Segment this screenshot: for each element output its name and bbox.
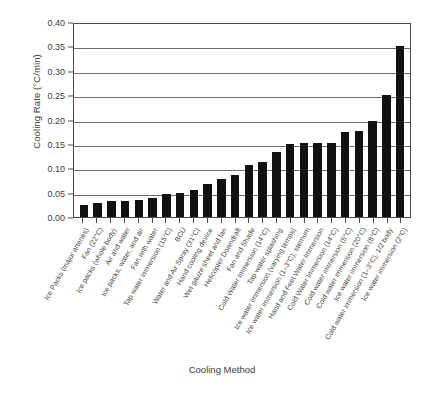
- y-tick-label: 0.35: [47, 42, 65, 52]
- bar-slot: [352, 24, 366, 217]
- x-tick-mark: [193, 218, 194, 223]
- bar-slot: [91, 24, 105, 217]
- bar: [93, 203, 102, 217]
- bar-slot: [146, 24, 160, 217]
- x-tick-mark: [304, 218, 305, 223]
- bar-slot: [77, 24, 91, 217]
- bar-slot: [256, 24, 270, 217]
- bar: [300, 143, 309, 217]
- bar: [355, 131, 364, 217]
- bar: [176, 193, 185, 217]
- x-tick-mark: [138, 218, 139, 223]
- bar: [203, 184, 212, 217]
- bar-slot: [132, 24, 146, 217]
- y-tick-mark: [68, 96, 73, 97]
- bar: [313, 143, 322, 217]
- bar-slot: [173, 24, 187, 217]
- bar-slot: [228, 24, 242, 217]
- y-tick-mark: [68, 169, 73, 170]
- bar-slot: [393, 24, 407, 217]
- x-tick-mark: [373, 218, 374, 223]
- x-tick-mark: [400, 218, 401, 223]
- x-tick-mark: [207, 218, 208, 223]
- x-tick-mark: [124, 218, 125, 223]
- y-tick-mark: [68, 71, 73, 72]
- bar-slot: [311, 24, 325, 217]
- bar-series: [74, 24, 410, 217]
- cooling-rate-bar-chart: Cooling Rate (°C/min) 0.400.350.300.250.…: [0, 0, 444, 395]
- y-tick-label: 0.00: [47, 213, 65, 223]
- x-tick-mark: [179, 218, 180, 223]
- bar-slot: [283, 24, 297, 217]
- bar-slot: [325, 24, 339, 217]
- bar-slot: [366, 24, 380, 217]
- bar: [396, 46, 405, 217]
- y-tick-mark: [68, 23, 73, 24]
- y-axis: 0.400.350.300.250.200.150.100.050.00: [0, 23, 73, 218]
- x-tick-mark: [165, 218, 166, 223]
- bar: [258, 162, 267, 217]
- x-tick-mark: [235, 218, 236, 223]
- y-tick-label: 0.30: [47, 67, 65, 77]
- x-tick-mark: [262, 218, 263, 223]
- x-tick-mark: [82, 218, 83, 223]
- plot-area: [73, 23, 411, 218]
- x-tick-mark: [248, 218, 249, 223]
- bar-slot: [201, 24, 215, 217]
- y-tick-label: 0.10: [47, 164, 65, 174]
- y-tick-mark: [68, 144, 73, 145]
- x-axis-labels: Ice Packs (major arteries)Fan (22°C)Ice …: [73, 224, 411, 354]
- bar: [341, 132, 350, 217]
- y-tick-mark: [68, 193, 73, 194]
- bar-slot: [297, 24, 311, 217]
- bar: [148, 198, 157, 218]
- x-tick-mark: [276, 218, 277, 223]
- bar: [107, 201, 116, 217]
- bar-slot: [270, 24, 284, 217]
- y-tick-label: 0.40: [47, 18, 65, 28]
- y-tick-label: 0.25: [47, 91, 65, 101]
- x-tick-mark: [331, 218, 332, 223]
- bar: [135, 200, 144, 217]
- x-tick-mark: [152, 218, 153, 223]
- x-tick-mark: [345, 218, 346, 223]
- x-tick-mark: [359, 218, 360, 223]
- bar: [231, 175, 240, 217]
- x-tick-mark: [290, 218, 291, 223]
- x-tick-mark: [96, 218, 97, 223]
- bar: [217, 179, 226, 217]
- bar-slot: [187, 24, 201, 217]
- bar: [121, 201, 130, 217]
- bar-slot: [105, 24, 119, 217]
- bar: [272, 152, 281, 217]
- bar-slot: [380, 24, 394, 217]
- bar: [368, 121, 377, 217]
- x-tick-mark: [387, 218, 388, 223]
- x-tick-mark: [221, 218, 222, 223]
- y-tick-mark: [68, 120, 73, 121]
- bar: [286, 144, 295, 217]
- bar-slot: [338, 24, 352, 217]
- bar: [245, 165, 254, 217]
- bar-slot: [242, 24, 256, 217]
- bar-slot: [215, 24, 229, 217]
- bar: [190, 190, 199, 217]
- y-tick-label: 0.15: [47, 140, 65, 150]
- y-tick-label: 0.05: [47, 189, 65, 199]
- bar: [80, 205, 89, 217]
- bar: [162, 194, 171, 217]
- x-tick-mark: [317, 218, 318, 223]
- bar-slot: [118, 24, 132, 217]
- y-tick-label: 0.20: [47, 116, 65, 126]
- y-tick-mark: [68, 47, 73, 48]
- bar-slot: [160, 24, 174, 217]
- x-axis-title: Cooling Method: [0, 364, 444, 375]
- x-tick-mark: [110, 218, 111, 223]
- bar: [382, 95, 391, 217]
- bar: [327, 143, 336, 217]
